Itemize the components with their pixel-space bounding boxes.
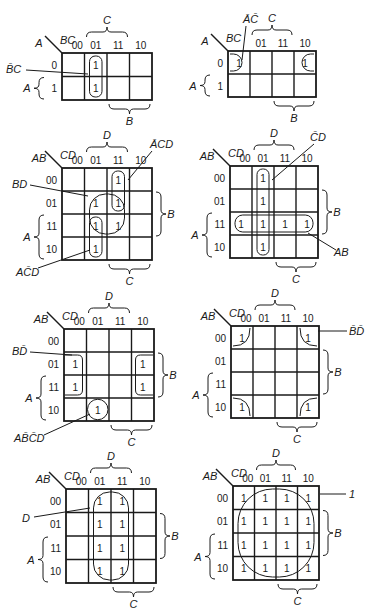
cell-value-one: 1 xyxy=(93,60,99,71)
row-gray-code-label: 0 xyxy=(51,60,57,71)
bottom-bracket xyxy=(113,587,154,597)
right-bracket-label: B xyxy=(334,366,341,378)
left-bracket-label: A xyxy=(191,389,199,401)
row-gray-code-label: 11 xyxy=(49,382,60,393)
right-bracket-label: B xyxy=(334,527,341,539)
column-gray-code-label: 11 xyxy=(282,473,293,484)
top-bracket-label: D xyxy=(271,287,279,299)
karnaugh-maps-figure: ABC000111100111CBAB̄CABC0111100111CBAĀC̄… xyxy=(0,0,375,616)
cell-value-one: 1 xyxy=(238,219,244,230)
column-gray-code-label: 10 xyxy=(302,313,314,324)
row-gray-code-label: 11 xyxy=(51,543,62,554)
row-gray-code-label: 00 xyxy=(215,333,227,344)
left-bracket-label: A xyxy=(188,80,196,92)
top-bracket xyxy=(257,460,296,470)
row-variable-label: AB xyxy=(200,310,216,322)
term-annotation-label: 1 xyxy=(349,488,355,500)
top-bracket-label: C xyxy=(268,12,276,24)
cell-value-one: 1 xyxy=(115,175,121,186)
cell-value-one: 1 xyxy=(239,333,245,344)
bottom-bracket-label: C xyxy=(293,433,301,445)
left-bracket xyxy=(38,537,48,582)
top-bracket xyxy=(255,300,295,310)
top-bracket xyxy=(252,25,292,35)
bottom-bracket-label: C xyxy=(292,273,300,285)
row-gray-code-label: 00 xyxy=(46,175,58,186)
row-variable-label: A xyxy=(200,35,208,47)
row-gray-code-label: 10 xyxy=(46,244,58,255)
cell-value-one: 1 xyxy=(97,519,103,530)
column-gray-code-label: 01 xyxy=(90,155,102,166)
cell-value-one: 1 xyxy=(115,221,121,232)
top-bracket-label: D xyxy=(107,450,115,462)
right-bracket xyxy=(158,353,168,397)
bottom-bracket xyxy=(109,264,150,274)
column-gray-code-label: 10 xyxy=(135,40,147,51)
column-gray-code-label: 01 xyxy=(257,153,269,164)
column-gray-code-label: 01 xyxy=(92,316,104,327)
cell-value-one: 1 xyxy=(305,402,311,413)
cell-value-one: 1 xyxy=(305,516,311,527)
top-bracket xyxy=(89,303,130,313)
cell-value-one: 1 xyxy=(260,196,266,207)
right-bracket-label: B xyxy=(333,206,340,218)
cell-value-one: 1 xyxy=(284,540,290,551)
cell-value-one: 1 xyxy=(284,563,290,574)
row-gray-code-label: 10 xyxy=(214,242,226,253)
left-bracket-label: A xyxy=(24,392,32,404)
karnaugh-map-6: ABCD00011110000111101111DCABB̄D̄ xyxy=(191,287,364,445)
right-bracket-label: B xyxy=(167,208,174,220)
term-annotation-label: C̄D xyxy=(310,131,326,143)
annotation-leader-line xyxy=(242,26,246,60)
row-gray-code-label: 10 xyxy=(48,405,60,416)
right-bracket xyxy=(322,190,332,234)
row-gray-code-label: 1 xyxy=(217,81,223,92)
term-annotation-label: BD xyxy=(12,178,27,190)
row-gray-code-label: 11 xyxy=(218,540,229,551)
cell-value-one: 1 xyxy=(305,333,311,344)
cell-value-one: 1 xyxy=(241,516,247,527)
cell-value-one: 1 xyxy=(260,219,266,230)
column-gray-code-label: 01 xyxy=(94,476,106,487)
karnaugh-map-3: ABCD0001111000011110111111DCABĀCDBDAC̄D xyxy=(12,129,175,287)
top-bracket-label: D xyxy=(103,129,111,141)
annotation-leader-line xyxy=(44,414,90,435)
cell-value-one: 1 xyxy=(304,219,310,230)
cell-value-one: 1 xyxy=(72,359,78,370)
cell-value-one: 1 xyxy=(95,405,101,416)
bottom-bracket-label: B xyxy=(290,112,297,124)
cell-value-one: 1 xyxy=(284,516,290,527)
column-gray-code-label: 01 xyxy=(255,38,267,49)
term-annotation-label: B̄C xyxy=(6,63,21,75)
term-annotation-label: BD̄ xyxy=(12,345,27,357)
bottom-bracket xyxy=(277,422,317,432)
column-gray-code-label: 00 xyxy=(74,316,86,327)
bottom-bracket xyxy=(109,104,150,114)
top-bracket-label: C xyxy=(103,14,111,26)
left-bracket-label: A xyxy=(22,82,30,94)
row-variable-label: A xyxy=(34,37,42,49)
row-gray-code-label: 10 xyxy=(217,563,229,574)
karnaugh-map-2: ABC0111100111CBAĀC̄ xyxy=(188,12,316,124)
right-bracket xyxy=(160,514,170,559)
cell-value-one: 1 xyxy=(97,543,103,554)
right-bracket xyxy=(323,511,333,556)
right-bracket xyxy=(156,192,166,236)
cell-value-one: 1 xyxy=(282,219,288,230)
row-gray-code-label: 10 xyxy=(50,566,62,577)
row-gray-code-label: 01 xyxy=(50,519,62,530)
cell-value-one: 1 xyxy=(262,563,268,574)
column-gray-code-label: 00 xyxy=(239,153,251,164)
cell-value-one: 1 xyxy=(140,382,146,393)
bottom-bracket xyxy=(274,101,314,111)
cell-value-one: 1 xyxy=(284,493,290,504)
cell-value-one: 1 xyxy=(260,242,266,253)
cell-value-one: 1 xyxy=(93,221,99,232)
bottom-bracket xyxy=(276,262,316,272)
cell-value-one: 1 xyxy=(262,516,268,527)
bottom-bracket-label: B xyxy=(126,115,133,127)
bottom-bracket-label: C xyxy=(128,436,136,448)
right-bracket xyxy=(323,350,333,394)
cell-value-one: 1 xyxy=(305,540,311,551)
cell-value-one: 1 xyxy=(119,543,125,554)
